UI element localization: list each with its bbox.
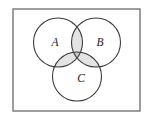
set-label-a: A: [50, 36, 59, 48]
venn-diagram-figure: A B C: [0, 0, 151, 121]
venn-diagram-canvas: A B C: [0, 0, 151, 121]
set-label-b: B: [96, 36, 103, 48]
set-label-c: C: [77, 72, 85, 84]
universal-set-rectangle: [13, 9, 140, 111]
